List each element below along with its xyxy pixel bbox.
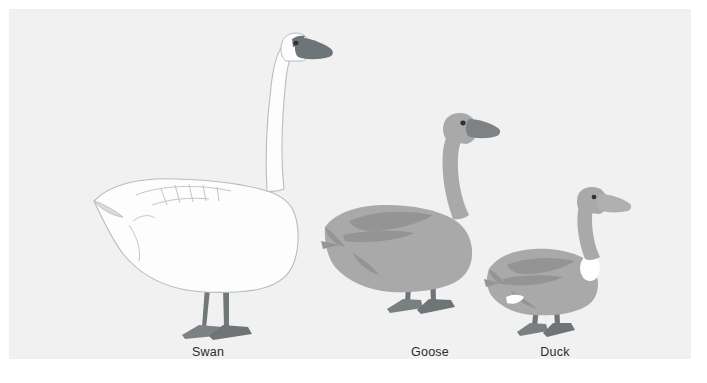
- goose-eye: [460, 121, 465, 126]
- species-label-goose: Goose: [411, 345, 449, 359]
- swan-legs: [182, 287, 252, 340]
- waterfowl-size-comparison-figure: Swan Goose Duck: [0, 0, 707, 383]
- species-label-swan: Swan: [192, 345, 224, 359]
- bird-illustration-canvas: [9, 9, 691, 359]
- duck-illustration: [484, 187, 631, 337]
- swan-body: [94, 179, 298, 293]
- illustration-panel: Swan Goose Duck: [9, 9, 691, 359]
- duck-bill: [597, 194, 631, 212]
- swan-illustration: [94, 33, 333, 340]
- swan-neck: [266, 45, 294, 191]
- goose-illustration: [321, 113, 500, 314]
- goose-bill: [466, 119, 500, 138]
- species-label-duck: Duck: [540, 345, 569, 359]
- duck-eye: [592, 195, 597, 199]
- swan-eye: [293, 41, 298, 46]
